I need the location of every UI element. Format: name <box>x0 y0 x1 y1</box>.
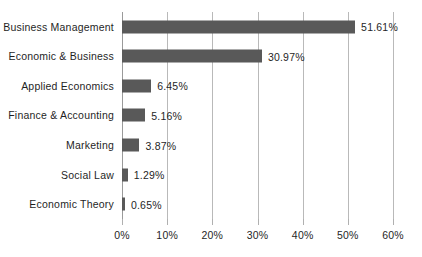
x-axis-tick-label: 10% <box>156 228 178 242</box>
x-axis-tick-mark <box>348 219 349 225</box>
x-axis-labels: 0%10%20%30%40%50%60% <box>122 228 393 244</box>
bar-value-label: 51.61% <box>361 21 398 33</box>
chart-row: Social Law1.29% <box>0 160 422 190</box>
bar-value-label: 0.65% <box>131 198 162 210</box>
category-label: Marketing <box>0 139 114 151</box>
category-label: Applied Economics <box>0 80 114 92</box>
x-axis-tick-label: 20% <box>202 228 224 242</box>
x-axis-tick-mark <box>122 219 123 225</box>
bar-group: 51.61% <box>122 20 398 33</box>
chart-row: Business Management51.61% <box>0 12 422 42</box>
category-label: Social Law <box>0 169 114 181</box>
x-axis-tick-label: 40% <box>292 228 314 242</box>
chart-row: Economic Theory0.65% <box>0 189 422 219</box>
x-axis-tick-label: 30% <box>247 228 269 242</box>
chart-rows: Business Management51.61%Economic & Busi… <box>0 12 422 219</box>
bar[interactable] <box>122 168 128 181</box>
bar[interactable] <box>122 198 125 211</box>
bar-value-label: 1.29% <box>134 169 165 181</box>
chart-row: Finance & Accounting5.16% <box>0 101 422 131</box>
bar-value-label: 5.16% <box>151 109 182 121</box>
bar-group: 1.29% <box>122 168 165 181</box>
x-axis-tick-mark <box>258 219 259 225</box>
bar[interactable] <box>122 50 262 63</box>
x-axis-tick-mark <box>393 219 394 225</box>
bar[interactable] <box>122 20 355 33</box>
bar-group: 5.16% <box>122 109 182 122</box>
bar-value-label: 3.87% <box>145 139 176 151</box>
x-axis-tick-label: 0% <box>114 228 130 242</box>
chart-row: Marketing3.87% <box>0 130 422 160</box>
bar-chart: Business Management51.61%Economic & Busi… <box>0 0 422 257</box>
bar-value-label: 6.45% <box>157 80 188 92</box>
category-label: Finance & Accounting <box>0 109 114 121</box>
category-label: Economic Theory <box>0 198 114 210</box>
x-axis-tick-label: 60% <box>382 228 404 242</box>
x-axis-tick-mark <box>303 219 304 225</box>
bar-group: 30.97% <box>122 50 305 63</box>
bar-group: 0.65% <box>122 198 162 211</box>
category-label: Business Management <box>0 21 114 33</box>
bar-group: 3.87% <box>122 139 176 152</box>
x-axis-tick-mark <box>212 219 213 225</box>
bar[interactable] <box>122 79 151 92</box>
category-label: Economic & Business <box>0 50 114 62</box>
x-axis-tick-marks <box>122 219 393 225</box>
x-axis-tick-label: 50% <box>337 228 359 242</box>
chart-row: Economic & Business30.97% <box>0 42 422 72</box>
bar[interactable] <box>122 109 145 122</box>
bar[interactable] <box>122 139 139 152</box>
chart-row: Applied Economics6.45% <box>0 71 422 101</box>
bar-group: 6.45% <box>122 79 188 92</box>
x-axis-tick-mark <box>167 219 168 225</box>
bar-value-label: 30.97% <box>268 50 305 62</box>
